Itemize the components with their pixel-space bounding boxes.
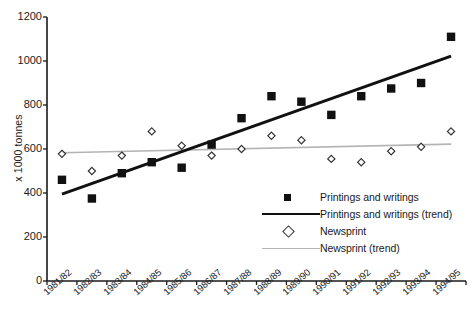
y-tick-label: 400	[0, 186, 42, 198]
newsprint-point	[58, 150, 65, 157]
y-tick-label: 600	[0, 142, 42, 154]
newsprint-point	[148, 128, 155, 135]
light-line-icon	[262, 240, 320, 256]
newsprint-point	[328, 155, 335, 162]
printings-point	[417, 79, 425, 87]
legend-label: Printings and writings	[320, 191, 419, 203]
newsprint-point	[388, 148, 395, 155]
newsprint-point	[447, 128, 454, 135]
legend-item-newsprint-trend: Newsprint (trend)	[262, 239, 472, 256]
printings-point	[207, 140, 215, 148]
dark-line-icon	[262, 206, 320, 222]
newsprint-point	[268, 132, 275, 139]
legend-label: Printings and writings (trend)	[320, 208, 452, 220]
legend-item-printings: Printings and writings	[262, 188, 472, 205]
open-diamond-icon	[262, 223, 320, 239]
printings-point	[447, 33, 455, 41]
y-tick-label: 800	[0, 98, 42, 110]
chart-legend: Printings and writings Printings and wri…	[262, 188, 472, 256]
printings-point	[327, 111, 335, 119]
legend-label: Newsprint (trend)	[320, 242, 400, 254]
printings-point	[148, 158, 156, 166]
printings-point	[118, 169, 126, 177]
printings-data-points	[58, 33, 455, 203]
newsprint-point	[238, 145, 245, 152]
printings-point	[177, 164, 185, 172]
filled-square-icon	[262, 189, 320, 205]
printings-point	[387, 84, 395, 92]
newsprint-point	[298, 137, 305, 144]
printings-point	[88, 194, 96, 202]
y-tick-label: 1000	[0, 54, 42, 66]
y-tick-label: 0	[0, 274, 42, 286]
newsprint-point	[358, 159, 365, 166]
legend-item-newsprint: Newsprint	[262, 222, 472, 239]
printings-point	[58, 176, 66, 184]
newsprint-point	[88, 167, 95, 174]
chart-container: x 1000 tonnes 020040060080010001200 1981…	[0, 0, 472, 335]
printings-point	[237, 114, 245, 122]
newsprint-point	[208, 152, 215, 159]
legend-label: Newsprint	[320, 225, 366, 237]
printings-point	[297, 98, 305, 106]
printings-point	[267, 92, 275, 100]
y-tick-label: 1200	[0, 10, 42, 22]
y-tick-label: 200	[0, 230, 42, 242]
newsprint-point	[118, 152, 125, 159]
legend-item-printings-trend: Printings and writings (trend)	[262, 205, 472, 222]
printings-point	[357, 92, 365, 100]
newsprint-point	[178, 142, 185, 149]
